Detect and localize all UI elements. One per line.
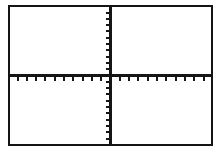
- calculator-graph-screen: [0, 0, 222, 153]
- quadrant-i[interactable]: [112, 7, 212, 75]
- quadrant-iii[interactable]: [10, 76, 110, 144]
- plot-frame: [8, 5, 213, 146]
- quadrant-ii[interactable]: [10, 7, 110, 75]
- quadrant-iv[interactable]: [112, 76, 212, 144]
- plot-area[interactable]: [10, 7, 211, 144]
